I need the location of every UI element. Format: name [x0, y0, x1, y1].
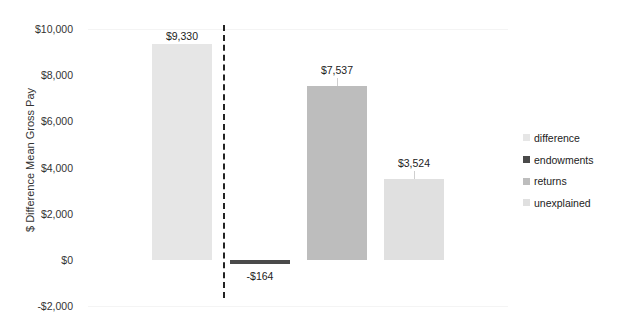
legend-label: endowments	[534, 154, 594, 166]
gridline	[88, 306, 508, 307]
legend-label: difference	[534, 132, 580, 144]
y-tick-label: $8,000	[41, 69, 73, 81]
data-label-endowments: -$164	[220, 270, 300, 282]
y-axis-label: $ Difference Mean Gross Pay	[24, 88, 36, 232]
legend-item-unexplained: unexplained	[523, 192, 594, 214]
y-tick-label: $0	[61, 254, 73, 266]
legend-item-difference: difference	[523, 127, 594, 149]
bar-difference	[152, 44, 212, 260]
label-leader-line	[337, 78, 338, 86]
legend-item-returns: returns	[523, 170, 594, 192]
dashed-separator-line	[223, 25, 225, 298]
label-leader-line	[414, 171, 415, 179]
legend-swatch-difference	[523, 134, 530, 141]
bar-chart: $ Difference Mean Gross Pay $10,000$8,00…	[0, 0, 619, 328]
data-label-difference: $9,330	[142, 30, 222, 42]
y-tick-label: $6,000	[41, 115, 73, 127]
legend-label: returns	[534, 175, 567, 187]
legend-swatch-unexplained	[523, 199, 530, 206]
y-tick-label: -$2,000	[37, 300, 73, 312]
legend-swatch-returns	[523, 178, 530, 185]
bar-endowments	[230, 260, 290, 264]
legend-item-endowments: endowments	[523, 149, 594, 171]
legend-label: unexplained	[534, 197, 591, 209]
data-label-unexplained: $3,524	[374, 157, 454, 169]
y-tick-label: $4,000	[41, 162, 73, 174]
data-label-returns: $7,537	[297, 64, 377, 76]
legend: difference endowments returns unexplaine…	[523, 127, 594, 214]
legend-swatch-endowments	[523, 156, 530, 163]
y-tick-label: $2,000	[41, 208, 73, 220]
bar-unexplained	[384, 179, 444, 260]
y-tick-label: $10,000	[35, 23, 73, 35]
bar-returns	[307, 86, 367, 260]
